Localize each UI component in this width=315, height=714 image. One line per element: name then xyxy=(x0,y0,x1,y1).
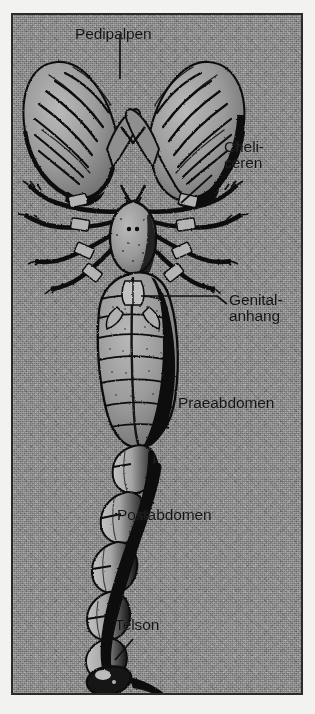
scorpion-drawing xyxy=(13,15,301,693)
telson xyxy=(87,666,183,693)
cephalothorax xyxy=(110,201,156,280)
left-pedipalp xyxy=(23,62,140,207)
label-genitalanhang-line-1: Genital- xyxy=(229,292,282,308)
label-cheliceren-line-1: Cheli- xyxy=(224,139,264,155)
label-postabdomen-line-1: Postabdomen xyxy=(117,507,212,523)
figure-root: Pedipalpen Cheli- ceren Genital- anhang … xyxy=(0,0,315,714)
label-postabdomen: Postabdomen xyxy=(117,507,212,523)
praeabdomen xyxy=(98,272,178,448)
genital-operculum xyxy=(122,281,144,305)
label-cheliceren: Cheli- ceren xyxy=(224,139,264,171)
label-praeabdomen-line-1: Praeabdomen xyxy=(178,395,274,411)
label-telson: Telson xyxy=(115,617,159,633)
label-genitalanhang: Genital- anhang xyxy=(229,292,282,324)
label-pedipalpen: Pedipalpen xyxy=(75,26,152,42)
label-pedipalpen-line-1: Pedipalpen xyxy=(75,26,152,42)
postabdomen xyxy=(86,445,157,679)
label-genitalanhang-line-2: anhang xyxy=(229,308,282,324)
illustration-plate: Pedipalpen Cheli- ceren Genital- anhang … xyxy=(11,13,303,695)
label-cheliceren-line-2: ceren xyxy=(224,155,264,171)
label-telson-line-1: Telson xyxy=(115,617,159,633)
label-praeabdomen: Praeabdomen xyxy=(178,395,274,411)
